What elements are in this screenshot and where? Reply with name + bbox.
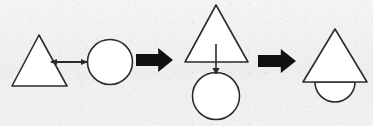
triangle-right <box>303 29 367 82</box>
panel-2-alignment <box>185 5 248 120</box>
circle-middle <box>193 73 240 120</box>
triangle-left <box>12 35 67 86</box>
step-arrow-1 <box>136 48 173 72</box>
step-arrow-2 <box>258 49 296 73</box>
panel-1-attraction <box>12 35 133 86</box>
block-arrow-shape <box>136 48 173 72</box>
panel-3-merged <box>303 29 367 102</box>
diagram-canvas <box>0 0 373 126</box>
block-arrow-shape <box>258 49 296 73</box>
circle-left <box>88 40 133 85</box>
shape-sequence-diagram <box>0 0 373 126</box>
semicircle-bottom <box>315 82 355 102</box>
